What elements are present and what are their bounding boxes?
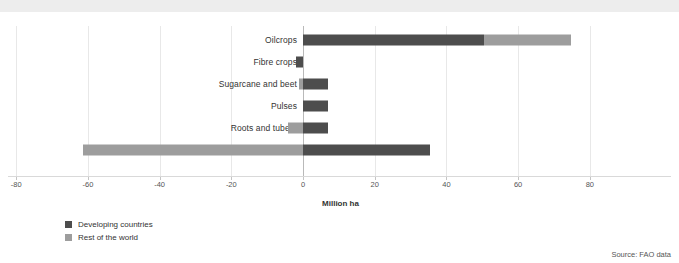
x-tick-label-80: 80 (586, 180, 594, 189)
x-axis: -80-60-40-20020406080 (0, 176, 679, 198)
legend-label-rest-of-the-world: Rest of the world (78, 233, 138, 242)
chart-row-oilcrops: Oilcrops (0, 29, 679, 51)
chart-row-roots-and-tubers: Roots and tubers (0, 117, 679, 139)
legend-item-developing-countries[interactable]: Developing countries (65, 219, 153, 230)
x-tick-label-20: 20 (371, 180, 379, 189)
x-tick-label--40: -40 (154, 180, 165, 189)
chart-row-fibre-crops: Fibre crops (0, 51, 679, 73)
chart-row-pulses: Pulses (0, 95, 679, 117)
bar-segment-roots-and-tubers-rest (288, 123, 303, 134)
bar-segment-sugarcane-and-beet-developing (303, 79, 328, 90)
source-note: Source: FAO data (611, 250, 671, 259)
chart-figure: OilcropsFibre cropsSugarcane and beetPul… (0, 12, 679, 263)
chart-row-cereals: Cereals (0, 139, 679, 161)
bar-segment-cereals-developing (303, 145, 430, 156)
x-axis-title-text: Million ha (322, 199, 359, 208)
category-label-oilcrops: Oilcrops (265, 35, 297, 45)
x-tick-label--20: -20 (226, 180, 237, 189)
x-tick-label--80: -80 (11, 180, 22, 189)
top-decorative-band (0, 0, 679, 12)
legend-item-rest-of-the-world[interactable]: Rest of the world (65, 232, 153, 243)
bar-segment-cereals-rest (83, 145, 303, 156)
bar-segment-oilcrops-rest (484, 35, 571, 46)
chart-legend: Developing countries Rest of the world (65, 219, 153, 245)
bar-segment-oilcrops-developing (303, 35, 484, 46)
category-label-sugarcane-and-beet: Sugarcane and beet (219, 79, 297, 89)
chart-row-sugarcane-and-beet: Sugarcane and beet (0, 73, 679, 95)
bar-segment-fibre-crops-developing (296, 57, 303, 68)
x-tick-label-40: 40 (442, 180, 450, 189)
legend-swatch-rest-of-the-world (65, 234, 72, 241)
bar-segment-roots-and-tubers-developing (303, 123, 328, 134)
plot-area: OilcropsFibre cropsSugarcane and beetPul… (0, 26, 679, 176)
x-tick-label-60: 60 (514, 180, 522, 189)
legend-label-developing-countries: Developing countries (78, 220, 153, 229)
category-label-fibre-crops: Fibre crops (253, 57, 297, 67)
x-tick-label--60: -60 (82, 180, 93, 189)
x-axis-title: Million ha (0, 199, 679, 208)
bar-segment-pulses-developing (303, 101, 328, 112)
x-axis-line (8, 176, 671, 177)
legend-swatch-developing-countries (65, 221, 72, 228)
bar-segment-sugarcane-and-beet-rest (299, 79, 303, 90)
category-label-pulses: Pulses (271, 101, 297, 111)
x-tick-label-0: 0 (301, 180, 305, 189)
